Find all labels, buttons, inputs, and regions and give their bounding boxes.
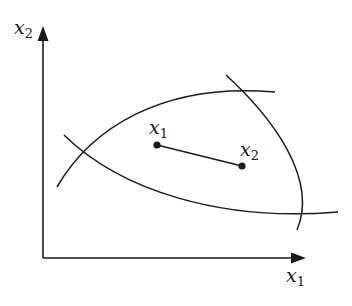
y-axis-arrow-icon xyxy=(38,26,49,41)
point-x1-label-var: x xyxy=(149,116,160,138)
right-curve xyxy=(226,75,302,230)
point-x2-label-var: x xyxy=(240,138,251,160)
segment-x1-x2 xyxy=(157,145,242,166)
y-axis-label: x2 xyxy=(14,18,33,40)
y-axis-label-sub: 2 xyxy=(25,26,33,41)
y-axis-label-var: x xyxy=(14,16,25,38)
lower-curve xyxy=(64,135,338,214)
point-x2-dot xyxy=(238,162,245,169)
point-x1-label-sub: 1 xyxy=(160,126,168,141)
point-x1-dot xyxy=(153,141,160,148)
x-axis-label: x1 xyxy=(286,266,305,288)
point-x1-label: x1 xyxy=(149,118,168,140)
point-x2-label: x2 xyxy=(240,140,259,162)
point-x2-label-sub: 2 xyxy=(251,148,259,163)
x-axis-arrow-icon xyxy=(291,253,306,264)
x-axis-label-sub: 1 xyxy=(297,274,305,289)
x-axis-label-var: x xyxy=(286,264,297,286)
feasible-region-diagram xyxy=(0,0,352,306)
